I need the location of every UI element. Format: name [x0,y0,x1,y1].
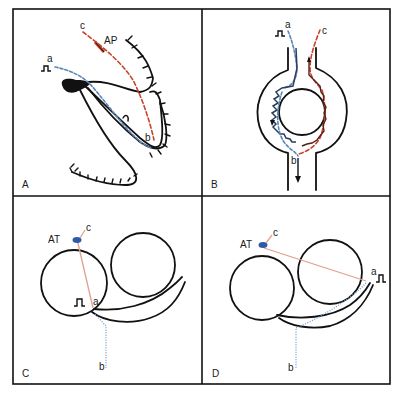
pulse-icon [376,275,386,282]
label-a: a [371,266,377,277]
label-c: c [86,222,91,233]
panel-d: AT c a b D [212,227,386,379]
label-b: b [291,155,297,166]
outer-ring-right [316,48,347,190]
panel-label-b: B [211,179,218,190]
pulse-icon [74,299,85,306]
label-ap: AP [104,35,118,46]
panel-c: AT c a b C [22,222,185,379]
panel-label-a: A [22,179,29,190]
circle-right [111,233,175,297]
inner-circle [279,89,325,135]
upper-arm-outline [88,40,153,92]
label-b: b [145,132,151,143]
electrode-lead [80,230,85,238]
label-a: a [93,296,99,307]
label-c: c [273,227,278,238]
electrode-lead [266,235,272,243]
panel-b: a c b B [211,19,347,190]
panel-a: a c AP b A [22,20,170,190]
figure-canvas: a c AP b A a c b B [0,0,400,394]
circle-right [298,240,362,304]
arrowhead-down [295,176,301,183]
recording-line [264,248,366,281]
label-at: AT [48,234,60,245]
label-a: a [47,53,53,64]
label-b: b [99,361,105,372]
pulse-icon [41,66,51,71]
panel-label-d: D [212,368,219,379]
recording-line [77,239,93,308]
label-at: AT [240,239,252,250]
villi-bottom [70,164,137,183]
circle-left [230,256,294,320]
panel-label-c: C [22,368,29,379]
label-c: c [80,20,85,31]
label-b: b [288,362,294,373]
label-c: c [322,25,327,36]
notch [123,115,128,121]
label-a: a [285,19,291,30]
panel-grid-frame [13,9,390,384]
pulse-icon [275,31,285,36]
conduction-path-a-b [95,314,106,368]
